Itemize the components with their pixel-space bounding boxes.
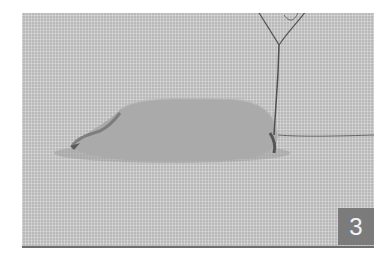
step-photo: 3 [22,13,374,247]
photo-bottom-border [22,246,374,248]
step-number-badge: 3 [338,208,374,245]
fabric-shape-illustration [22,13,374,247]
